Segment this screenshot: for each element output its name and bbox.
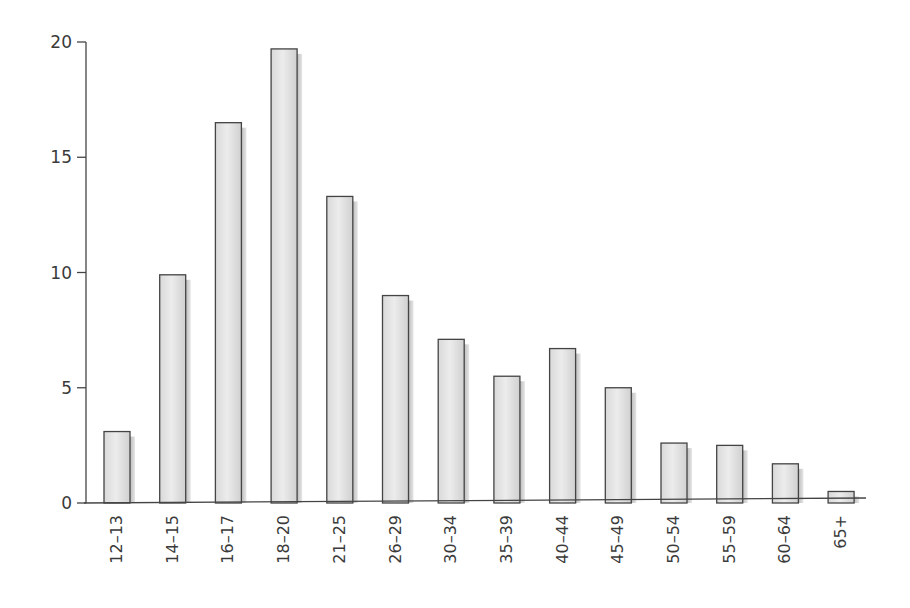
y-tick-label: 0 [61, 493, 72, 513]
y-axis: 05101520 [50, 32, 86, 513]
x-category-label: 26–29 [386, 515, 405, 564]
y-tick-label: 10 [50, 263, 72, 283]
bar [104, 432, 135, 503]
x-category-label: 60–64 [775, 515, 794, 564]
bar [605, 388, 636, 503]
bar [550, 349, 581, 503]
bar [215, 123, 246, 503]
bar [494, 376, 525, 503]
bar [271, 49, 302, 503]
bar [828, 491, 859, 503]
x-category-label: 12–13 [107, 515, 126, 564]
bar [160, 275, 191, 503]
x-category-label: 45–49 [608, 515, 627, 564]
x-category-label: 55–59 [720, 515, 739, 564]
bar [327, 196, 358, 503]
bar [661, 443, 692, 503]
x-category-label: 18–20 [274, 515, 293, 564]
bar [438, 339, 469, 503]
x-category-label: 50–54 [664, 515, 683, 564]
bar [772, 464, 803, 503]
bars [104, 49, 859, 503]
y-tick-label: 20 [50, 32, 72, 52]
x-category-label: 35–39 [497, 515, 516, 564]
y-tick-label: 15 [50, 147, 72, 167]
x-category-label: 65+ [831, 515, 850, 549]
bar [383, 296, 414, 503]
bar-chart: 05101520 12–1314–1516–1718–2021–2526–293… [0, 0, 910, 608]
x-category-label: 14–15 [163, 515, 182, 564]
x-category-label: 40–44 [553, 515, 572, 564]
y-tick-label: 5 [61, 378, 72, 398]
bar [717, 445, 748, 503]
x-axis: 12–1314–1516–1718–2021–2526–2930–3435–39… [84, 498, 866, 564]
x-category-label: 16–17 [218, 515, 237, 564]
x-category-label: 21–25 [330, 515, 349, 564]
x-category-label: 30–34 [441, 515, 460, 564]
